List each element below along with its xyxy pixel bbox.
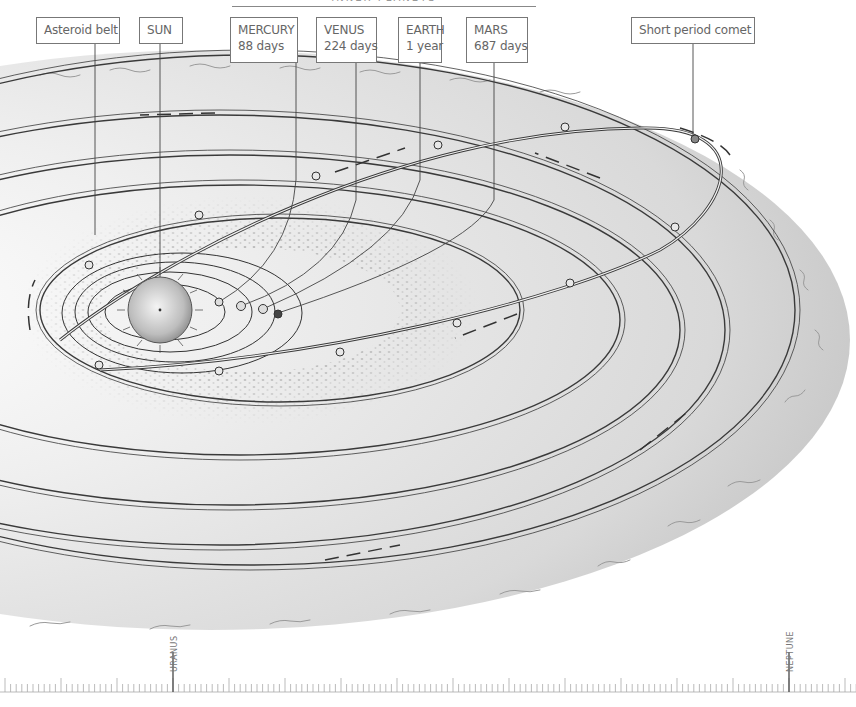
venus-label: VENUS 224 days [316,17,377,63]
earth-planet [259,305,268,314]
venus-period: 224 days [324,38,369,54]
sun-label: SUN [139,17,183,44]
solar-system-illustration [0,0,856,707]
short-period-comet-label: Short period comet [631,17,755,44]
earth-period: 1 year [406,38,434,54]
neptune-marker-label: NEPTUNE [786,631,795,672]
mercury-period: 88 days [238,38,290,54]
venus-name: VENUS [324,22,369,38]
earth-name: EARTH [406,22,434,38]
mars-period: 687 days [474,38,520,54]
asteroid-belt-label-text: Asteroid belt [44,23,118,37]
header-rule [232,6,536,7]
mars-name: MARS [474,22,520,38]
mercury-planet [215,298,223,306]
mercury-name: MERCURY [238,22,290,38]
mars-planet [274,310,282,318]
asteroid-belt-label: Asteroid belt [36,17,120,44]
earth-label: EARTH 1 year [398,17,442,63]
sun-label-text: SUN [147,23,172,37]
inner-planets-heading: INNER PLANETS [232,0,536,3]
mercury-label: MERCURY 88 days [230,17,298,63]
mars-label: MARS 687 days [466,17,528,63]
uranus-marker-label: URANUS [170,636,179,672]
comet-label-text: Short period comet [639,23,751,37]
venus-planet [237,302,246,311]
distance-ruler [0,652,856,692]
